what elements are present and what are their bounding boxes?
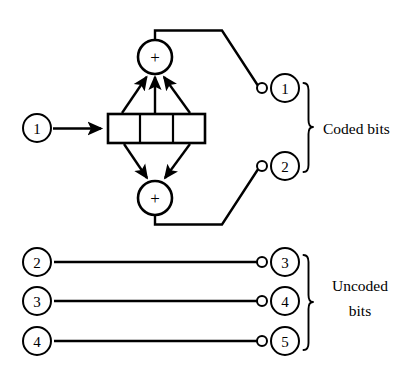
output-terminal-4-dot [257, 296, 267, 306]
output-node-5: 5 [257, 327, 299, 355]
tap-wire-right-to-top-adder [164, 77, 190, 113]
uncoded-bits-label-line1: Uncoded [332, 277, 388, 294]
adder-bottom-plus: + [150, 189, 160, 208]
output-node-1-label: 1 [281, 81, 289, 97]
output-node-5-label: 5 [281, 334, 289, 350]
input-node-1-label: 1 [33, 121, 41, 137]
coded-bits-brace [304, 83, 314, 172]
coded-bits-label: Coded bits [323, 120, 390, 137]
tap-wire-left-to-bottom-adder [124, 144, 147, 178]
adder-bottom: + [138, 181, 172, 215]
uncoded-bits-label-line2: bits [349, 302, 371, 319]
tap-wire-right-to-bottom-adder [165, 144, 190, 178]
adder-top-plus: + [150, 48, 160, 67]
adder-top: + [138, 40, 172, 74]
input-node-2: 2 [23, 248, 51, 276]
coded-bits-group: Coded bits [304, 83, 390, 172]
adder-top-input-wires [122, 77, 190, 113]
input-node-2-label: 2 [33, 255, 41, 271]
output-terminal-5-dot [257, 336, 267, 346]
output-node-4-label: 4 [281, 294, 289, 310]
adder-bottom-input-wires [124, 144, 190, 178]
input-node-1: 1 [23, 114, 51, 142]
input-node-4-label: 4 [33, 334, 41, 350]
output-node-2: 2 [257, 152, 299, 180]
uncoded-wires [54, 262, 257, 341]
uncoded-bits-group: Uncoded bits [304, 255, 389, 350]
output-node-3-label: 3 [281, 255, 289, 271]
output-node-1: 1 [257, 74, 299, 102]
input-node-3: 3 [23, 287, 51, 315]
output-node-4: 4 [257, 287, 299, 315]
output-node-3: 3 [257, 248, 299, 276]
input-node-4: 4 [23, 327, 51, 355]
output-node-2-label: 2 [281, 159, 289, 175]
output-terminal-1-dot [257, 83, 267, 93]
encoder-diagram: + + 1 2 3 4 [0, 0, 415, 368]
output-terminal-2-dot [257, 161, 267, 171]
shift-register [108, 114, 205, 143]
output-terminal-3-dot [257, 257, 267, 267]
input-node-3-label: 3 [33, 294, 41, 310]
shift-register-outline [108, 114, 205, 143]
diagram-canvas: + + 1 2 3 4 [0, 0, 415, 368]
uncoded-bits-brace [304, 255, 314, 350]
tap-wire-left-to-top-adder [122, 77, 147, 113]
